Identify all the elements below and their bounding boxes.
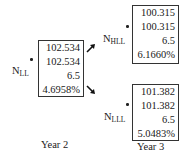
node-dot-hll xyxy=(126,25,129,28)
value-3: 6.5 xyxy=(41,69,80,83)
node-box-ll: 102.534 102.534 6.5 4.6958% xyxy=(38,40,84,97)
value-4: 6.1660% xyxy=(135,48,175,62)
node-dot-lll xyxy=(126,103,129,106)
value-2: 101.382 xyxy=(135,99,175,113)
year-3-label: Year 3 xyxy=(137,141,164,152)
arrow-down-right-icon xyxy=(86,85,96,95)
node-label-hll: NHLL xyxy=(103,33,125,46)
label-main: N xyxy=(103,33,111,44)
label-sub: LLL xyxy=(112,115,126,124)
node-dot-ll xyxy=(30,58,33,61)
node-box-lll: 101.382 101.382 6.5 5.0483% xyxy=(132,84,179,141)
value-1: 100.315 xyxy=(135,6,175,20)
value-2: 100.315 xyxy=(135,20,175,34)
node-label-ll: NLL xyxy=(12,65,29,78)
value-2: 102.534 xyxy=(41,55,80,69)
value-4: 5.0483% xyxy=(135,127,175,141)
label-main: N xyxy=(12,65,20,76)
arrow-up-right-icon xyxy=(86,43,96,53)
value-3: 6.5 xyxy=(135,113,175,127)
value-3: 6.5 xyxy=(135,34,175,48)
node-label-lll: NLLL xyxy=(104,111,125,124)
label-sub: LL xyxy=(20,69,29,78)
value-1: 102.534 xyxy=(41,41,80,55)
year-2-label: Year 2 xyxy=(41,139,68,150)
value-4: 4.6958% xyxy=(41,83,80,97)
value-1: 101.382 xyxy=(135,85,175,99)
label-sub: HLL xyxy=(111,37,126,46)
label-main: N xyxy=(104,111,112,122)
node-box-hll: 100.315 100.315 6.5 6.1660% xyxy=(132,5,179,64)
